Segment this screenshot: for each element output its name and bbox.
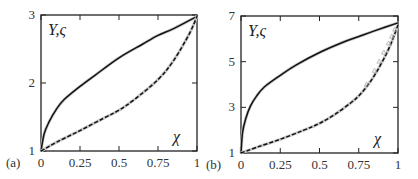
y-tick-label: 1 xyxy=(29,143,36,158)
y-tick-label: 2 xyxy=(29,75,36,90)
reference-marker xyxy=(372,68,376,72)
y-axis-label: Y,ς xyxy=(248,22,266,39)
x-tick-label: 0.25 xyxy=(269,157,292,172)
panel-b: 00.250.50.7511357Y,ςχ(b) xyxy=(206,8,401,172)
x-tick-label: 0.5 xyxy=(111,155,127,170)
reference-marker xyxy=(386,41,390,45)
panel-label: (a) xyxy=(6,155,20,170)
x-tick-label: 0 xyxy=(38,155,45,170)
x-tick-label: 1 xyxy=(395,157,402,172)
figure: 00.250.50.751123Y,ςχ(a) 00.250.50.751135… xyxy=(0,0,418,179)
x-tick-label: 0.25 xyxy=(69,155,92,170)
y-tick-label: 3 xyxy=(29,7,36,22)
y-tick-label: 3 xyxy=(229,99,236,114)
y-tick-label: 1 xyxy=(229,145,236,160)
x-tick-label: 0.5 xyxy=(311,157,327,172)
reference-marker xyxy=(382,50,386,54)
panel-a: 00.250.50.751123Y,ςχ(a) xyxy=(6,7,200,170)
x-axis-label: χ xyxy=(171,128,181,146)
panel-label: (b) xyxy=(206,157,221,172)
y-axis-label: Y,ς xyxy=(48,21,66,38)
reference-marker xyxy=(377,59,381,63)
x-axis-label: χ xyxy=(372,130,382,148)
x-tick-label: 1 xyxy=(194,155,201,170)
x-tick-label: 0.75 xyxy=(147,155,170,170)
x-tick-label: 0 xyxy=(238,157,245,172)
y-tick-label: 7 xyxy=(229,8,236,23)
y-tick-label: 5 xyxy=(229,54,236,69)
x-tick-label: 0.75 xyxy=(347,157,370,172)
